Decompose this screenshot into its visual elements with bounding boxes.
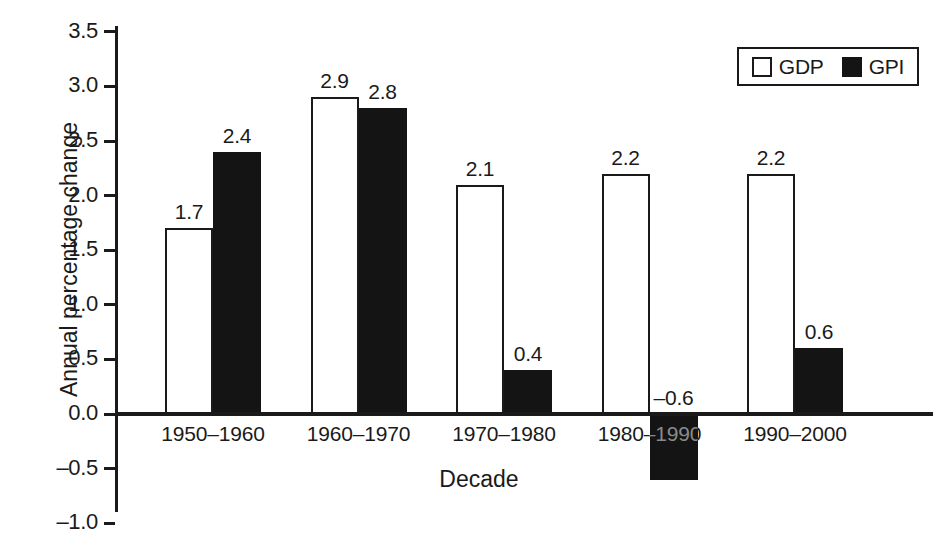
legend-item-gpi: GPI <box>842 55 905 79</box>
y-axis-tick <box>104 140 115 143</box>
y-axis-tick-label-text: 3.5 <box>36 18 98 44</box>
chart-figure: 3.53.02.52.01.51.00.50.0–0.5–1.0 Annual … <box>0 0 948 549</box>
x-axis-category-label: 1990–2000 <box>700 422 890 446</box>
x-axis-title: Decade <box>0 466 948 493</box>
bar-value-label: 1.7 <box>145 200 233 224</box>
bar-gdp-3 <box>602 174 650 416</box>
bar-gdp-2 <box>456 185 504 416</box>
bar-value-label: 2.2 <box>582 146 670 170</box>
legend-swatch-gpi-icon <box>842 57 862 77</box>
y-axis-tick <box>104 413 115 416</box>
y-axis-tick <box>104 85 115 88</box>
bar-gpi-1 <box>359 108 407 416</box>
bar-value-label: 2.1 <box>436 157 524 181</box>
bar-gdp-1 <box>311 97 359 416</box>
legend-label-gpi: GPI <box>869 55 905 79</box>
legend-label-gdp: GDP <box>779 55 824 79</box>
y-axis-tick <box>104 249 115 252</box>
bar-value-label: –0.6 <box>630 386 718 410</box>
bar-gpi-2 <box>504 370 552 416</box>
bar-gpi-4 <box>795 348 843 416</box>
chart-legend: GDP GPI <box>737 47 919 86</box>
y-axis-tick-label-text: –1.0 <box>36 509 98 535</box>
y-axis-tick <box>104 522 115 525</box>
y-axis-tick <box>104 30 115 33</box>
legend-swatch-gdp-icon <box>752 57 772 77</box>
y-axis-tick-label: 3.5 <box>30 18 98 40</box>
bar-value-label: 2.2 <box>727 146 815 170</box>
y-axis-title: Annual percentage change <box>56 50 83 470</box>
bar-gdp-0 <box>165 228 213 416</box>
y-axis-tick-label: –1.0 <box>30 509 98 531</box>
bar-gdp-4 <box>747 174 795 416</box>
legend-item-gdp: GDP <box>752 55 824 79</box>
y-axis-tick <box>104 194 115 197</box>
bar-gpi-0 <box>213 152 261 416</box>
y-axis-tick <box>104 358 115 361</box>
y-axis-tick <box>104 303 115 306</box>
bar-value-label: 2.4 <box>193 124 281 148</box>
bar-value-label: 0.6 <box>775 320 863 344</box>
bar-value-label: 2.8 <box>339 80 427 104</box>
plot-area: 3.53.02.52.01.51.00.50.0–0.5–1.0 Annual … <box>0 0 948 549</box>
bar-value-label: 0.4 <box>484 342 572 366</box>
zero-baseline <box>115 412 933 416</box>
